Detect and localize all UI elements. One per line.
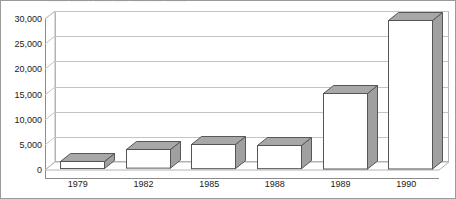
y-axis-tick-label: 25,000 (2, 39, 42, 49)
x-axis-tick-label: 1979 (45, 179, 111, 189)
bar-column[interactable] (323, 85, 379, 171)
y-axis-tick-label: 0 (2, 165, 42, 175)
bar-column[interactable] (191, 136, 247, 170)
y-axis-tick-label: 30,000 (2, 14, 42, 24)
y-axis-tick-label: 10,000 (2, 115, 42, 125)
x-axis-tick-label: 1989 (308, 179, 374, 189)
chart-frame: ........ ........ ....... ,.... ........… (0, 0, 456, 199)
y-axis-tick-label: 20,000 (2, 64, 42, 74)
bar-column[interactable] (126, 141, 182, 170)
x-axis-labels: 197919821985198819891990 (45, 179, 449, 195)
bar-column[interactable] (257, 137, 313, 170)
y-axis-labels: 05,00010,00015,00020,00025,00030,000 (1, 11, 42, 178)
x-axis-tick-label: 1988 (242, 179, 308, 189)
x-axis-tick-label: 1985 (176, 179, 242, 189)
chart-title: ........ ........ ....... ,.... ........… (47, 0, 186, 4)
bar-series (45, 11, 449, 178)
bar-column[interactable] (60, 153, 116, 170)
y-axis-tick-label: 5,000 (2, 140, 42, 150)
x-axis-tick-label: 1990 (373, 179, 439, 189)
bar-column[interactable] (388, 12, 444, 170)
x-axis-tick-label: 1982 (111, 179, 177, 189)
y-axis-tick-label: 15,000 (2, 90, 42, 100)
